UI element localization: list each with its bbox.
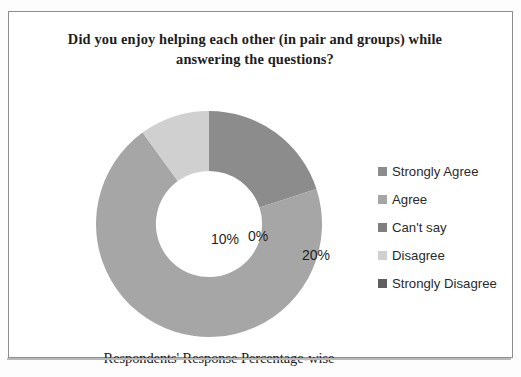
legend-label: Strongly Disagree (392, 276, 497, 291)
chart-title: Did you enjoy helping each other (in pai… (35, 29, 475, 69)
slice-label-strongly-agree: 20% (302, 247, 330, 263)
legend-swatch-icon (378, 223, 387, 232)
legend-item-strongly-agree[interactable]: Strongly Agree (378, 157, 497, 185)
chart-caption: Respondents' Response Percentage-wise (69, 350, 369, 367)
doughnut-slices (96, 111, 322, 337)
legend-item-cant-say[interactable]: Can't say (378, 213, 497, 241)
legend-swatch-icon (378, 195, 387, 204)
legend-swatch-icon (378, 167, 387, 176)
legend-swatch-icon (378, 279, 387, 288)
legend-item-disagree[interactable]: Disagree (378, 241, 497, 269)
legend-swatch-icon (378, 251, 387, 260)
legend-label: Strongly Agree (392, 164, 479, 179)
figure-page: Did you enjoy helping each other (in pai… (0, 0, 521, 377)
legend-item-agree[interactable]: Agree (378, 185, 497, 213)
doughnut-chart: 10% 0% 20% 70% (96, 111, 322, 337)
chart-legend: Strongly Agree Agree Can't say Disagree … (378, 157, 497, 297)
figure-border: Did you enjoy helping each other (in pai… (8, 11, 513, 358)
legend-label: Can't say (392, 220, 447, 235)
slice-label-cant-say: 0% (248, 228, 268, 244)
legend-item-strongly-disagree[interactable]: Strongly Disagree (378, 269, 497, 297)
doughnut-slice[interactable] (209, 111, 316, 208)
slice-label-agree: 10% (211, 231, 239, 247)
legend-label: Disagree (392, 248, 445, 263)
legend-label: Agree (392, 192, 427, 207)
doughnut-svg (96, 111, 322, 337)
